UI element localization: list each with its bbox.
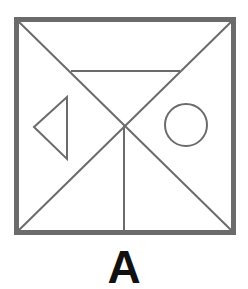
circle-shape	[165, 104, 207, 146]
figure-label: A	[0, 244, 248, 289]
diagram-figure: A	[0, 0, 248, 289]
triangle-shape	[34, 97, 67, 159]
